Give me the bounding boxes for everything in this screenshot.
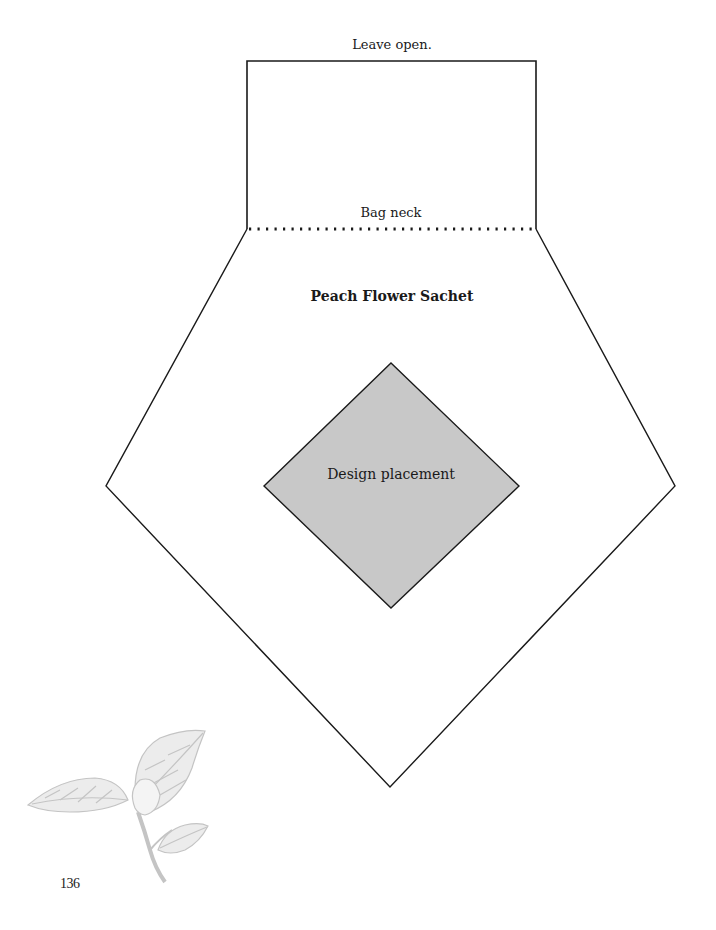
pattern-title: Peach Flower Sachet <box>311 288 474 304</box>
bag-neck-label: Bag neck <box>361 205 422 220</box>
pattern-page: Leave open. Bag neck Peach Flower Sachet… <box>0 0 716 930</box>
design-placement-diamond <box>264 363 519 608</box>
bag-neck-rectangle <box>247 61 536 229</box>
sachet-pattern-diagram <box>0 0 716 930</box>
peach-blossom-branch-icon <box>28 730 208 882</box>
page-number: 136 <box>60 876 80 892</box>
design-placement-label: Design placement <box>327 466 455 482</box>
leave-open-label: Leave open. <box>352 37 432 52</box>
